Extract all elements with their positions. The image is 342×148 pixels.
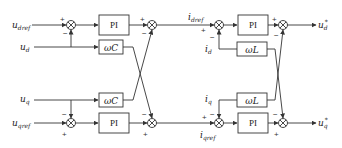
control-block-diagram: udref + − PI + − ud ωC uq ωC uqref [0, 0, 342, 148]
label-u-d: ud [20, 42, 30, 53]
sign-minus: − [63, 29, 68, 38]
sign-minus: − [62, 110, 67, 119]
svg-text:PI: PI [249, 118, 257, 128]
label-u-qref: uqref [12, 118, 32, 130]
sign-plus: + [274, 130, 279, 139]
svg-text:PI: PI [110, 118, 118, 128]
sign-plus: + [140, 15, 145, 24]
label-i-dref: idref [188, 12, 205, 24]
sign-minus: − [210, 33, 215, 42]
label-u-dref: udref [12, 20, 32, 32]
sign-plus: + [143, 130, 148, 139]
omega-c-block-top: ωC [99, 40, 123, 54]
summing-junction-bottom-3 [215, 119, 224, 128]
pi-block-current-q: PI [238, 113, 268, 133]
summing-junction-top-3 [215, 21, 224, 30]
label-i-q: iq [205, 94, 212, 106]
omega-l-block-top: ωL [237, 42, 267, 56]
sign-plus: + [272, 15, 277, 24]
wire-cross-top-to-bottom-current [267, 49, 283, 118]
label-u-d-star: ud* [318, 18, 328, 31]
sign-minus: − [210, 110, 215, 119]
omega-c-block-bottom: ωC [99, 93, 123, 107]
omega-l-block-bottom: ωL [237, 93, 267, 107]
summing-junction-top-4 [279, 21, 288, 30]
sign-plus: + [60, 15, 65, 24]
summing-junction-bottom-4 [279, 119, 288, 128]
svg-text:PI: PI [249, 20, 257, 30]
svg-text:ωL: ωL [245, 96, 258, 106]
sign-minus: − [273, 110, 278, 119]
sign-plus: + [202, 113, 207, 122]
sign-plus: + [201, 26, 206, 35]
sign-minus: − [142, 29, 147, 38]
summing-junction-bottom-2 [148, 119, 157, 128]
wire-cross-bottom-to-top-current [267, 30, 283, 100]
pi-block-current-d: PI [238, 15, 268, 35]
sign-minus: − [142, 110, 147, 119]
summing-junction-bottom-1 [67, 119, 76, 128]
pi-block-voltage-q: PI [99, 113, 129, 133]
svg-text:ωL: ωL [245, 45, 258, 55]
pi-block-voltage-d: PI [99, 15, 129, 35]
label-u-q: uq [20, 94, 30, 106]
sign-plus: + [62, 130, 67, 139]
label-u-q-star: uq* [318, 116, 328, 130]
svg-text:PI: PI [110, 20, 118, 30]
summing-junction-top-2 [148, 21, 157, 30]
svg-text:ωC: ωC [104, 96, 118, 106]
label-i-qref: iqref [200, 130, 217, 142]
label-i-d: id [205, 44, 212, 55]
svg-text:ωC: ωC [104, 43, 118, 53]
summing-junction-top-1 [67, 21, 76, 30]
sign-minus: − [274, 31, 279, 40]
